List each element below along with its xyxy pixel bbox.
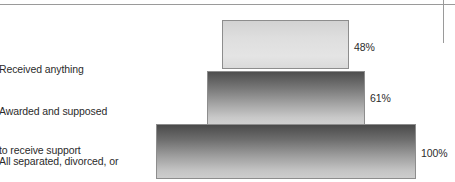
- funnel-bar-chart: Received anything 48% Awarded and suppos…: [0, 0, 455, 182]
- page-top-rule: [0, 4, 455, 5]
- bar-all-separated: [156, 124, 416, 179]
- category-label-line: All separated, divorced, or: [0, 155, 142, 168]
- category-label-line: Awarded and supposed: [0, 105, 107, 118]
- category-label-all-separated: All separated, divorced, or remarried wo…: [0, 129, 142, 182]
- value-label-all-separated: 100%: [421, 147, 447, 159]
- category-label-line: Received anything: [0, 63, 84, 76]
- page-right-rule: [443, 0, 444, 43]
- bar-received-anything: [222, 20, 349, 69]
- value-label-awarded-supposed: 61%: [370, 92, 391, 104]
- value-label-received-anything: 48%: [354, 41, 375, 53]
- bar-awarded-supposed: [207, 71, 365, 125]
